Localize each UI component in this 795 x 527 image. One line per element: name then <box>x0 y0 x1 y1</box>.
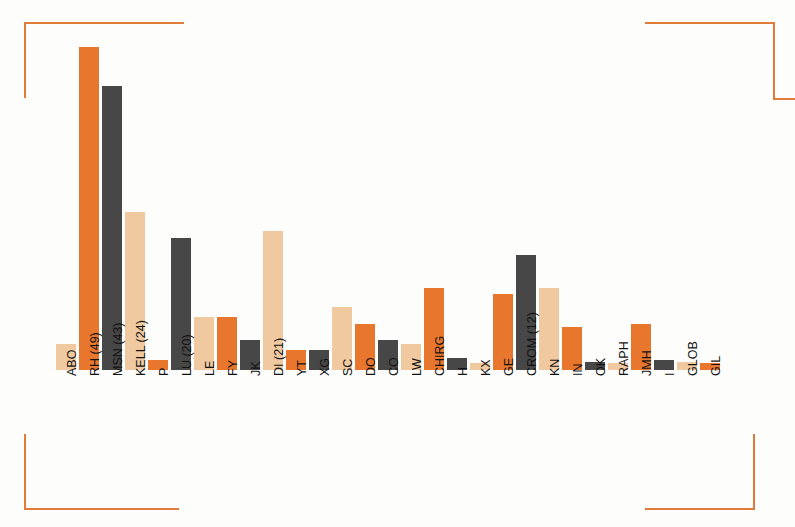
x-axis-tick-label: KX <box>470 374 493 492</box>
x-axis-tick-label: FY <box>217 374 240 492</box>
bar-slot <box>286 40 309 370</box>
x-axis-tick-label-text: FY <box>227 360 240 376</box>
bar-slot <box>171 40 194 370</box>
bar[interactable] <box>654 360 674 370</box>
x-axis-tick-label-text: IN <box>572 364 585 377</box>
bar-slot <box>148 40 171 370</box>
x-axis-tick-label-text: LE <box>204 361 217 376</box>
x-axis-tick-label-text: DI (21) <box>273 338 286 376</box>
x-axis-tick-label-text: H <box>457 367 470 376</box>
bar-slot <box>470 40 493 370</box>
x-axis-tick-label-text: RH (49) <box>89 332 102 376</box>
bar[interactable] <box>539 288 559 371</box>
plot-area <box>56 40 756 370</box>
x-axis-tick-label-text: RAPH <box>618 341 631 376</box>
x-axis-tick-label: H <box>447 374 470 492</box>
bar-slot <box>217 40 240 370</box>
x-axis-tick-label: KELL (24) <box>125 374 148 492</box>
x-axis-tick-label: SC <box>332 374 355 492</box>
x-axis-tick-label-text: CROM (12) <box>526 312 539 376</box>
x-axis-tick-label-text: LU (20) <box>181 334 194 376</box>
bar-slot <box>447 40 470 370</box>
bar-slot <box>608 40 631 370</box>
bar-slot <box>378 40 401 370</box>
x-axis-tick-label-text: GLOB <box>687 341 700 376</box>
bar-slot <box>79 40 102 370</box>
x-axis-tick-label-text: GE <box>503 358 516 376</box>
bar-slot <box>355 40 378 370</box>
x-axis-tick-label-text: YT <box>296 360 309 376</box>
x-axis-tick-label-text: SC <box>342 359 355 376</box>
x-axis-tick-label: DI (21) <box>263 374 286 492</box>
bar-slot <box>677 40 700 370</box>
x-axis-tick-label: KN <box>539 374 562 492</box>
x-axis-tick-label: P <box>148 374 171 492</box>
x-axis-tick-label-text: KELL (24) <box>135 320 148 376</box>
bar-slot <box>631 40 654 370</box>
x-axis-tick-label-text: KN <box>549 359 562 376</box>
x-axis-tick-label: I <box>654 374 677 492</box>
x-axis-tick-label: JK <box>240 374 263 492</box>
x-axis-tick-label: RH (49) <box>79 374 102 492</box>
figure-page: ABORH (49)MSN (43)KELL (24)PLU (20)LEFYJ… <box>0 0 795 527</box>
bar-slot <box>562 40 585 370</box>
x-axis-tick-label-text: I <box>664 373 677 376</box>
x-axis-tick-label-text: KX <box>480 359 493 376</box>
x-axis-tick-label: ABO <box>56 374 79 492</box>
x-axis-tick-label: MSN (43) <box>102 374 125 492</box>
x-axis-tick-label: LU (20) <box>171 374 194 492</box>
x-axis-tick-label-text: GIL <box>710 356 723 376</box>
x-axis-tick-label-text: CHIRG <box>434 336 447 376</box>
x-axis-tick-label: IN <box>562 374 585 492</box>
bar-slot <box>194 40 217 370</box>
bar-slot <box>332 40 355 370</box>
bar-slot <box>654 40 677 370</box>
x-axis-tick-label-text: LW <box>411 358 424 376</box>
x-axis-tick-label-text: P <box>158 368 171 376</box>
x-axis-tick-label-text: XG <box>319 358 332 376</box>
x-axis-tick-label: LE <box>194 374 217 492</box>
bar-slot <box>263 40 286 370</box>
x-axis-tick-label-text: DO <box>365 357 378 376</box>
x-axis-tick-label-text: JK <box>250 361 263 376</box>
bar-slot <box>309 40 332 370</box>
bar-slot <box>56 40 79 370</box>
x-axis-tick-label: GIL <box>700 374 723 492</box>
bar-slot <box>424 40 447 370</box>
x-axis-tick-label: CO <box>378 374 401 492</box>
x-axis-tick-label-text: CO <box>388 357 401 376</box>
bar-slot <box>700 40 723 370</box>
x-axis-tick-label-text: MSN (43) <box>112 323 125 376</box>
x-axis-tick-label: JMH <box>631 374 654 492</box>
x-axis-tick-label: XG <box>309 374 332 492</box>
bar-chart: ABORH (49)MSN (43)KELL (24)PLU (20)LEFYJ… <box>0 0 795 527</box>
x-axis-tick-label-text: JMH <box>641 350 654 376</box>
x-axis-tick-label-text: OK <box>595 358 608 376</box>
bar[interactable] <box>79 47 99 370</box>
x-axis-tick-label: OK <box>585 374 608 492</box>
bar-slot <box>102 40 125 370</box>
x-axis-tick-label: DO <box>355 374 378 492</box>
bar-slot <box>493 40 516 370</box>
x-axis-tick-label: GE <box>493 374 516 492</box>
bar-slot <box>401 40 424 370</box>
x-axis-tick-label-text: ABO <box>66 350 79 376</box>
bar-slot <box>585 40 608 370</box>
x-axis-tick-label: GLOB <box>677 374 700 492</box>
bar-slot <box>240 40 263 370</box>
x-axis-tick-label: RAPH <box>608 374 631 492</box>
x-axis-label-group: ABORH (49)MSN (43)KELL (24)PLU (20)LEFYJ… <box>56 374 756 494</box>
bar-slot <box>539 40 562 370</box>
x-axis-tick-label: YT <box>286 374 309 492</box>
x-axis-tick-label: CHIRG <box>424 374 447 492</box>
x-axis-tick-label: CROM (12) <box>516 374 539 492</box>
x-axis-tick-label: LW <box>401 374 424 492</box>
